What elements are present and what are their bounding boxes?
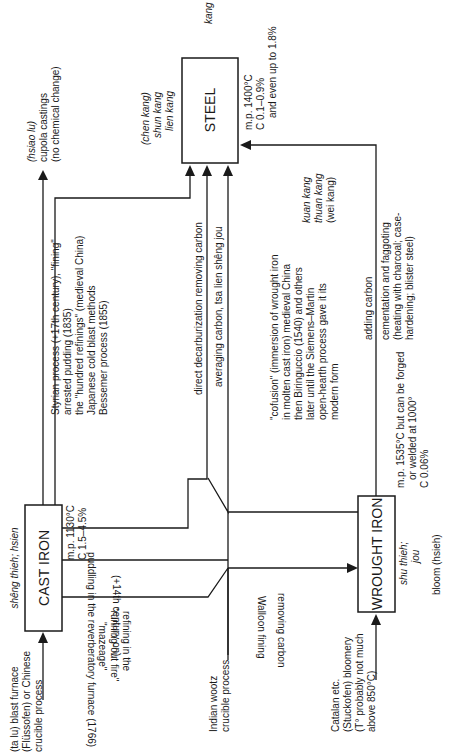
steel-chinese-left-0: (chen kang) <box>140 92 151 145</box>
steel-mp: m.p. 1400°C <box>243 74 254 130</box>
cupola-2: (no chemical change) <box>50 66 61 162</box>
fining-3: Japanese cold blast methods <box>86 285 97 415</box>
cofusion-0: "cofusion" (immersion of wrought iron <box>269 255 280 421</box>
blast-furnace-2: crucible process <box>33 680 44 752</box>
direct-decarb-label: direct decarburization removing carbon <box>193 222 204 395</box>
cofusion-3: later until the Siemens–Martin <box>305 288 316 420</box>
bloomery-2: (T° probably not much <box>354 634 365 733</box>
wrought-iron-label: WROUGHT IRON <box>369 498 385 611</box>
steel-chinese-left-1: shun kang <box>152 91 163 138</box>
bloom-label: bloom (hsieh) <box>431 534 442 595</box>
blast-furnace-1: (Flüssofen) or Chinese <box>21 650 32 752</box>
arrow-up-icon <box>223 165 233 176</box>
fining-1: arrested pudding (1835) <box>62 308 73 415</box>
steel-chinese-right-0: kuan kang <box>301 176 312 223</box>
wrought-iron-mp: m.p. 1535°C but can be forged <box>395 352 406 488</box>
cementation-2: hardening; blister steel) <box>404 236 415 340</box>
cast-iron-label: CAST IRON <box>36 530 52 606</box>
cofusion-1: in molten cast iron) medieval China <box>281 263 292 420</box>
removing-carbon-label: removing carbon <box>276 593 287 667</box>
cementation-0: cementation and faggoting <box>380 222 391 340</box>
arrow-left-icon <box>240 140 251 150</box>
arrow-right-icon <box>347 563 358 573</box>
arrow-up-icon <box>38 632 48 643</box>
steel-carbon: C 0.1–0.9% <box>255 78 266 130</box>
walloon-label: Walloon fining <box>256 596 267 658</box>
averaging-carbon-label: averaging carbon, tsa lien shêng jou <box>213 226 224 387</box>
cast-iron-mp: m.p. 1130°C <box>65 505 76 560</box>
cast-iron-chinese: shêng thieh; hsien <box>9 527 20 609</box>
cupola-1: cupola castings <box>38 93 49 162</box>
indian-wootz-0: Indian wootz <box>208 676 219 732</box>
bloomery-0: Catalan etc. <box>330 679 341 732</box>
cofusion-2: then Biringuccio (1540) and others <box>293 267 304 420</box>
fining-2: the "hundred refinings" (medieval China) <box>74 236 85 415</box>
blast-furnace-0: (ta lu) blast furnace <box>9 666 20 752</box>
running-out-fire-2: "mazeage" <box>97 622 108 671</box>
wrought-iron-carbon: C 0.06% <box>419 450 430 488</box>
arrow-up-icon <box>38 170 48 180</box>
iron-steel-process-diagram: CAST IRON STEEL WROUGHT IRON shêng thieh… <box>0 0 457 755</box>
running-out-fire-1: "running-out fire" <box>109 607 120 682</box>
adding-carbon-label: adding carbon <box>363 277 374 340</box>
bloomery-3: above 850°C) <box>366 671 377 732</box>
steel-carbon-extra: and even up to 1.8% <box>267 26 278 118</box>
cupola-0: (hsiao lu) <box>26 121 37 162</box>
wrought-iron-chinese-1: jou <box>410 549 421 565</box>
cofusion-5: modern form <box>329 363 340 420</box>
arrow-up-icon <box>371 614 381 625</box>
fining-0: Styrian process (+17th century), "fining… <box>50 239 61 415</box>
indian-wootz-1: crucible process <box>220 660 231 732</box>
wrought-iron-weld: or welded at 1000° <box>407 396 418 480</box>
arrow-up-icon <box>202 165 212 176</box>
running-out-fire-0: refining in the <box>121 611 132 671</box>
bloomery-1: (Stuckofen) bloomery <box>342 637 353 732</box>
arrow-up-icon <box>185 165 195 176</box>
steel-chinese-right-2: (wei kang) <box>325 177 336 223</box>
steel-chinese-kang: kang <box>203 2 214 24</box>
cementation-1: (heating with charcoal; case- <box>392 213 403 340</box>
wrought-iron-chinese-0: shu thieh; <box>398 541 409 585</box>
steel-chinese-left-2: lien kang <box>164 91 175 131</box>
fining-4: Bessemer process (1855) <box>98 301 109 416</box>
cofusion-4: open-hearth process gave it its <box>317 283 328 420</box>
steel-label: STEEL <box>202 88 218 133</box>
steel-chinese-right-1: thuan kang <box>313 173 324 223</box>
puddling-label: puddling in the reverberatory furnace (1… <box>86 552 97 747</box>
